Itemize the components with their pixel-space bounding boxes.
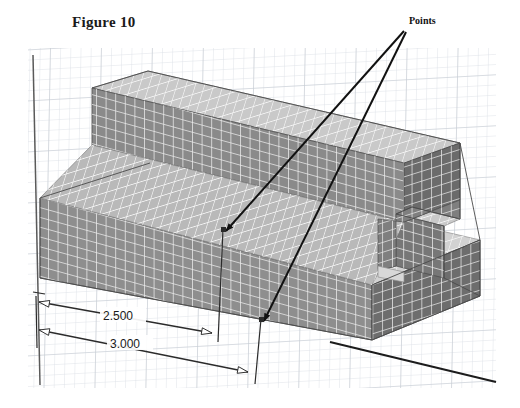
dim-3000-label: 3.000 [110,337,140,351]
cad-viewport[interactable]: 2.500 3.000 [0,0,520,408]
dim-2500-label: 2.500 [103,309,133,323]
figure-container: Figure 10 Points [0,0,520,408]
